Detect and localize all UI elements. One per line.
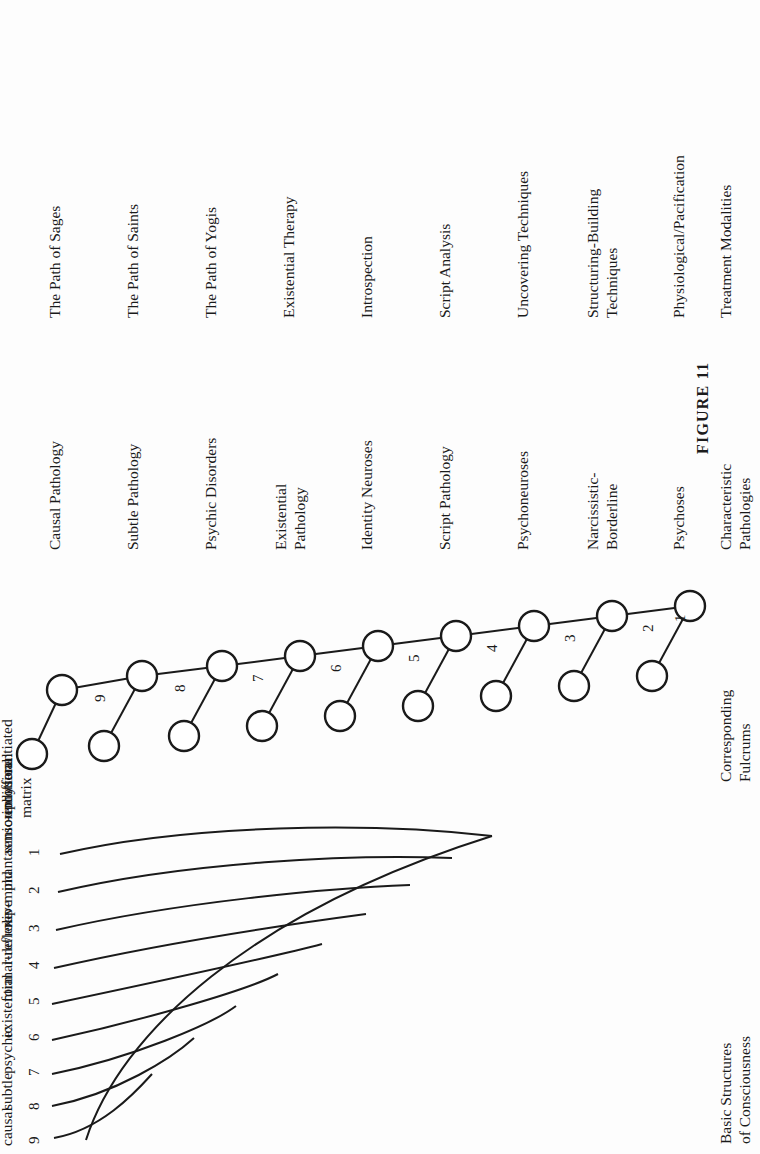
pivot-node-5 <box>441 621 471 651</box>
outer-node-4 <box>403 691 433 721</box>
fulcrum-number-5: 5 <box>406 655 423 663</box>
pathologies-column: Causal Pathology Subtle Pathology Psychi… <box>0 360 760 550</box>
treatment-item-path-of-sages: The Path of Sages <box>46 206 65 318</box>
figure-canvas: 9 8 7 6 5 4 3 2 1 causal subtle psychic … <box>0 0 760 1154</box>
header-treatment-modalities: Treatment Modalities <box>716 88 735 318</box>
pivot-node-8 <box>207 651 237 681</box>
pathology-item-identity: Identity Neuroses <box>358 440 377 550</box>
pivot-node-4 <box>519 611 549 641</box>
outer-node-9 <box>17 739 47 769</box>
pivot-node-terminal <box>47 675 77 705</box>
treatment-item-script-analysis: Script Analysis <box>436 224 455 318</box>
outer-node-3 <box>481 681 511 711</box>
outer-node-2 <box>559 671 589 701</box>
treatment-item-introspection: Introspection <box>358 236 377 318</box>
treatment-item-uncovering: Uncovering Techniques <box>514 171 533 318</box>
outer-node-8 <box>89 731 119 761</box>
treatment-item-path-of-yogis: The Path of Yogis <box>202 207 221 318</box>
rotated-page-wrapper: 9 8 7 6 5 4 3 2 1 causal subtle psychic … <box>0 0 760 1154</box>
fulcrum-number-4: 4 <box>484 645 501 653</box>
fulcrum-pivot-nodes <box>47 591 705 705</box>
pathology-item-psychoses: Psychoses <box>670 486 689 550</box>
fulcrum-number-3: 3 <box>562 635 579 643</box>
outer-node-1 <box>637 661 667 691</box>
header-characteristic-pathologies: Characteristic Pathologies <box>716 350 755 550</box>
pathology-item-psychic: Psychic Disorders <box>202 438 221 550</box>
basic-structures-labels: causal subtle psychic existential formal… <box>0 794 760 1154</box>
pivot-node-7 <box>285 641 315 671</box>
treatment-item-structuring-building: Structuring-Building Techniques <box>584 189 622 318</box>
pivot-node-9 <box>127 661 157 691</box>
header-basic-structures: Basic Structures of Consciousness <box>716 944 755 1144</box>
figure-caption: FIGURE 11 <box>694 362 712 454</box>
pivot-node-6 <box>363 631 393 661</box>
treatments-column: The Path of Sages The Path of Saints The… <box>0 88 760 318</box>
treatment-item-path-of-saints: The Path of Saints <box>124 204 143 318</box>
pathology-item-existential: Existential Pathology <box>272 484 310 550</box>
fulcrum-number-7: 7 <box>250 675 267 683</box>
fulcrum-number-1: 1 <box>672 615 689 623</box>
header-corresponding-fulcrums: Corresponding Fulcrums <box>716 582 755 782</box>
fulcrum-outer-nodes <box>17 661 667 769</box>
treatment-item-physiological: Physiological/Pacification <box>670 155 689 318</box>
pathology-item-psychoneuroses: Psychoneuroses <box>514 451 533 550</box>
fulcrum-number-9: 9 <box>92 695 109 703</box>
pathology-item-causal: Causal Pathology <box>46 441 65 550</box>
pathology-item-subtle: Subtle Pathology <box>124 444 143 550</box>
pathology-item-narcissistic: Narcissistic- Borderline <box>584 473 622 550</box>
fulcrums-diagram: 9 8 7 6 5 4 3 2 1 <box>0 552 760 802</box>
pathology-item-script: Script Pathology <box>436 446 455 550</box>
outer-node-7 <box>169 721 199 751</box>
fulcrum-number-8: 8 <box>172 685 189 693</box>
treatment-item-existential-therapy: Existential Therapy <box>280 196 299 318</box>
outer-node-6 <box>247 711 277 741</box>
fulcrum-number-6: 6 <box>328 665 345 673</box>
fulcrums-svg <box>0 552 760 802</box>
fulcrum-number-2: 2 <box>640 625 657 633</box>
outer-node-5 <box>325 701 355 731</box>
pivot-node-3 <box>597 601 627 631</box>
